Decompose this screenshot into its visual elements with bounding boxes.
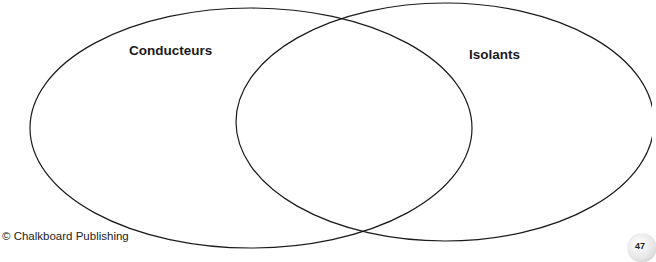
page-number: 47 (635, 241, 645, 251)
page-number-badge: 47 (628, 234, 656, 262)
venn-circle-conducteurs (30, 8, 472, 248)
set-label-isolants: Isolants (469, 47, 520, 62)
copyright-notice: © Chalkboard Publishing (2, 230, 129, 242)
set-label-conducteurs: Conducteurs (129, 43, 212, 58)
venn-circle-isolants (236, 3, 652, 241)
